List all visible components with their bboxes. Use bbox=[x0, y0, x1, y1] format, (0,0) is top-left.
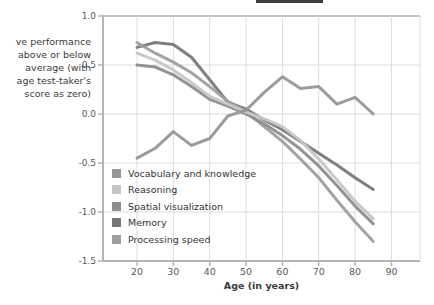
x-axis-label: Age (in years) bbox=[103, 280, 420, 291]
legend-swatch-reasoning bbox=[112, 185, 121, 194]
y-tick-label--1.0: -1.0 bbox=[78, 207, 96, 217]
legend-label-memory: Memory bbox=[128, 217, 167, 228]
legend-item-processing-speed: Processing speed bbox=[112, 231, 256, 248]
y-tick-label-0.0: 0.0 bbox=[82, 109, 97, 119]
legend-item-reasoning: Reasoning bbox=[112, 182, 256, 199]
legend-swatch-processing-speed bbox=[112, 235, 121, 244]
line-chart-plot-area: 1.00.50.0-0.5-1.0-1.52030405060708090 bbox=[0, 0, 434, 305]
y-tick-label--1.5: -1.5 bbox=[78, 256, 96, 266]
legend-label-processing-speed: Processing speed bbox=[128, 234, 210, 245]
x-tick-label-30: 30 bbox=[167, 266, 179, 277]
x-tick-label-60: 60 bbox=[276, 266, 288, 277]
legend: Vocabulary and knowledgeReasoningSpatial… bbox=[112, 165, 256, 248]
legend-item-vocabulary-and-knowledge: Vocabulary and knowledge bbox=[112, 165, 256, 182]
x-tick-label-40: 40 bbox=[204, 266, 216, 277]
legend-label-reasoning: Reasoning bbox=[128, 184, 177, 195]
y-tick-label--0.5: -0.5 bbox=[78, 158, 96, 168]
legend-label-spatial-visualization: Spatial visualization bbox=[128, 201, 223, 212]
x-tick-label-80: 80 bbox=[349, 266, 361, 277]
x-tick-label-90: 90 bbox=[385, 266, 397, 277]
legend-label-vocabulary-and-knowledge: Vocabulary and knowledge bbox=[128, 168, 256, 179]
legend-swatch-vocabulary-and-knowledge bbox=[112, 169, 121, 178]
legend-item-memory: Memory bbox=[112, 215, 256, 232]
cognitive-aging-figure: ve performance above or below average (w… bbox=[0, 0, 434, 305]
x-tick-label-20: 20 bbox=[131, 266, 143, 277]
x-tick-label-50: 50 bbox=[240, 266, 252, 277]
y-tick-label-1.0: 1.0 bbox=[82, 11, 97, 21]
x-tick-label-70: 70 bbox=[313, 266, 325, 277]
y-tick-label-0.5: 0.5 bbox=[82, 60, 96, 70]
legend-item-spatial-visualization: Spatial visualization bbox=[112, 198, 256, 215]
legend-swatch-memory bbox=[112, 218, 121, 227]
legend-swatch-spatial-visualization bbox=[112, 202, 121, 211]
